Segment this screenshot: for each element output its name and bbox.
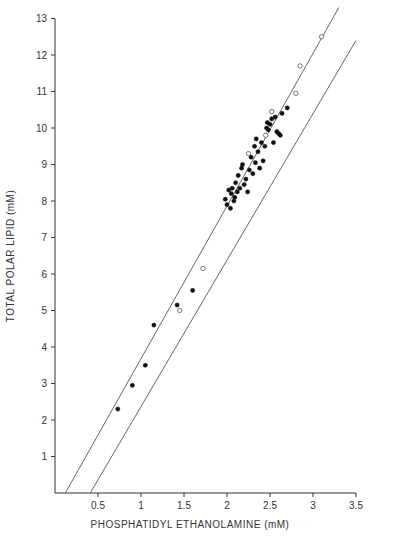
y-tick-label: 1	[41, 451, 47, 462]
filled-data-point	[273, 115, 277, 119]
filled-data-point	[152, 323, 156, 327]
scatter-chart: 123456789101112130.511.522.533.5PHOSPHAT…	[0, 0, 398, 544]
filled-data-point	[285, 106, 289, 110]
filled-data-point	[256, 150, 260, 154]
open-data-point	[246, 151, 250, 155]
filled-data-point	[130, 383, 134, 387]
y-tick-label: 5	[41, 305, 47, 316]
y-tick-label: 2	[41, 415, 47, 426]
x-tick-label: 1	[138, 500, 144, 511]
filled-data-point	[242, 182, 246, 186]
y-axis-title: TOTAL POLAR LIPID (mM)	[5, 190, 16, 323]
filled-data-point	[261, 159, 265, 163]
filled-data-point	[228, 206, 232, 210]
filled-data-point	[247, 168, 251, 172]
x-tick-label: 2	[224, 500, 230, 511]
y-tick-label: 11	[37, 86, 48, 97]
x-tick-label: 3.5	[349, 500, 363, 511]
filled-data-point	[175, 303, 179, 307]
filled-data-point	[235, 190, 239, 194]
filled-data-point	[254, 137, 258, 141]
filled-data-point	[271, 141, 275, 145]
data-points	[116, 35, 324, 412]
axes	[51, 19, 356, 498]
filled-data-point	[258, 166, 262, 170]
open-data-point	[178, 308, 182, 312]
filled-data-point	[280, 111, 284, 115]
filled-data-point	[252, 144, 256, 148]
y-tick-label: 12	[36, 50, 48, 61]
filled-data-point	[263, 144, 267, 148]
filled-data-point	[238, 186, 242, 190]
filled-data-point	[225, 203, 229, 207]
x-tick-label: 3	[310, 500, 316, 511]
x-axis-title: PHOSPHATIDYL ETHANOLAMINE (mM)	[91, 519, 290, 530]
filled-data-point	[253, 161, 257, 165]
open-data-point	[319, 35, 323, 39]
x-tick-label: 1.5	[177, 500, 191, 511]
filled-data-point	[230, 186, 234, 190]
filled-data-point	[116, 407, 120, 411]
y-tick-label: 10	[36, 123, 48, 134]
y-tick-label: 8	[41, 196, 47, 207]
filled-data-point	[240, 162, 244, 166]
axis-labels: 123456789101112130.511.522.533.5PHOSPHAT…	[5, 13, 363, 530]
open-data-point	[294, 91, 298, 95]
filled-data-point	[143, 363, 147, 367]
y-tick-label: 7	[41, 232, 47, 243]
filled-data-point	[259, 141, 263, 145]
filled-data-point	[191, 288, 195, 292]
filled-data-point	[268, 122, 272, 126]
filled-data-point	[229, 192, 233, 196]
filled-data-point	[278, 133, 282, 137]
y-tick-label: 9	[41, 159, 47, 170]
filled-data-point	[246, 190, 250, 194]
y-tick-label: 6	[41, 269, 47, 280]
y-tick-label: 13	[36, 13, 48, 24]
x-tick-label: 2.5	[263, 500, 277, 511]
y-tick-label: 4	[41, 342, 47, 353]
filled-data-point	[251, 172, 255, 176]
filled-data-point	[234, 181, 238, 185]
upper-bound-line	[65, 8, 338, 493]
reference-lines	[65, 8, 356, 493]
x-tick-label: 0.5	[91, 500, 105, 511]
open-data-point	[264, 133, 268, 137]
y-tick-label: 3	[41, 378, 47, 389]
filled-data-point	[223, 197, 227, 201]
filled-data-point	[244, 177, 248, 181]
filled-data-point	[266, 128, 270, 132]
filled-data-point	[233, 195, 237, 199]
open-data-point	[298, 64, 302, 68]
filled-data-point	[236, 173, 240, 177]
open-data-point	[270, 109, 274, 113]
open-data-point	[201, 266, 205, 270]
lower-bound-line	[90, 40, 356, 493]
